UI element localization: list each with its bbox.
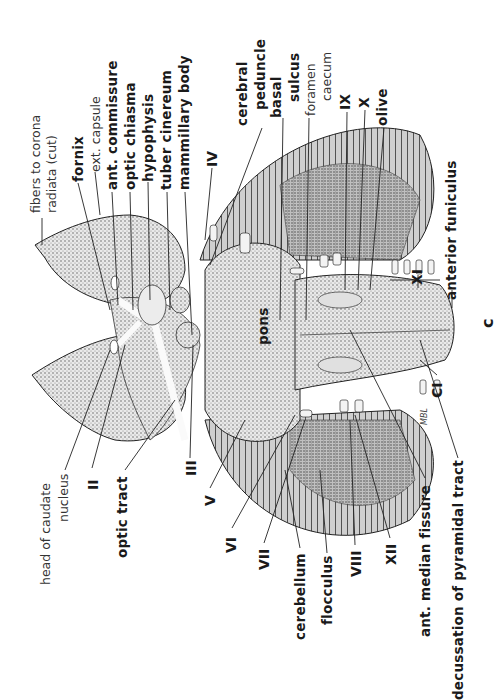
label-olive: olive xyxy=(376,89,390,127)
label-head-caudate-line1: head of caudate xyxy=(40,483,53,585)
label-ext-capsule: ext. capsule xyxy=(90,96,103,172)
label-anterior-funiculus: anterior funiculus xyxy=(445,161,459,300)
label-nerve-viii: VIII xyxy=(349,551,363,577)
label-nerve-vi: VI xyxy=(224,537,238,553)
panel-letter: c xyxy=(480,319,495,328)
label-nerve-v: V xyxy=(203,495,217,506)
label-tuber-cinereum: tuber cinereum xyxy=(160,70,174,190)
label-nerve-xi: XI xyxy=(410,269,424,285)
label-nerve-iv: IV xyxy=(205,151,219,167)
label-nerve-vii: VII xyxy=(257,549,271,570)
artist-signature: MBL xyxy=(421,408,429,425)
label-basal-sulcus-line1: basal xyxy=(270,76,284,118)
label-nerve-xii: XII xyxy=(384,544,398,565)
label-optic-tract: optic tract xyxy=(116,476,130,558)
label-foramen-caecum-line2: caecum xyxy=(321,52,334,101)
label-cerebral-peduncle-line2: peduncle xyxy=(254,39,268,110)
label-nerve-ci: CI xyxy=(430,383,444,398)
label-ant-median-fissure: ant. median fissure xyxy=(419,485,433,637)
label-basal-sulcus-line2: sulcus xyxy=(288,53,302,102)
label-pons: pons xyxy=(257,308,271,345)
label-head-caudate-line2: nucleus xyxy=(58,474,71,522)
label-nerve-ii: II xyxy=(86,480,100,490)
label-flocculus: flocculus xyxy=(321,556,335,625)
label-cerebral-peduncle-line1: cerebral xyxy=(236,61,250,126)
label-fibers-corona-line2: radiata (cut) xyxy=(46,135,59,213)
label-nerve-iii: III xyxy=(184,460,198,476)
label-ant-commissure: ant. commissure xyxy=(106,60,120,190)
label-hypophysis: hypophysis xyxy=(142,94,156,182)
label-nerve-ix: IX xyxy=(338,94,352,110)
label-nerve-x: X xyxy=(357,97,371,108)
label-mammillary-body: mammillary body xyxy=(178,55,192,190)
label-fornix: fornix xyxy=(72,136,86,182)
label-fibers-corona-line1: fibers to corona xyxy=(30,115,43,213)
pons-drawing xyxy=(205,243,300,441)
label-decussation-pyramidal-tract: decussation of pyramidal tract xyxy=(452,460,466,700)
label-cerebellum: cerebellum xyxy=(294,553,308,640)
label-optic-chiasma: optic chiasma xyxy=(124,82,138,190)
label-foramen-caecum-line1: foramen xyxy=(305,63,318,116)
